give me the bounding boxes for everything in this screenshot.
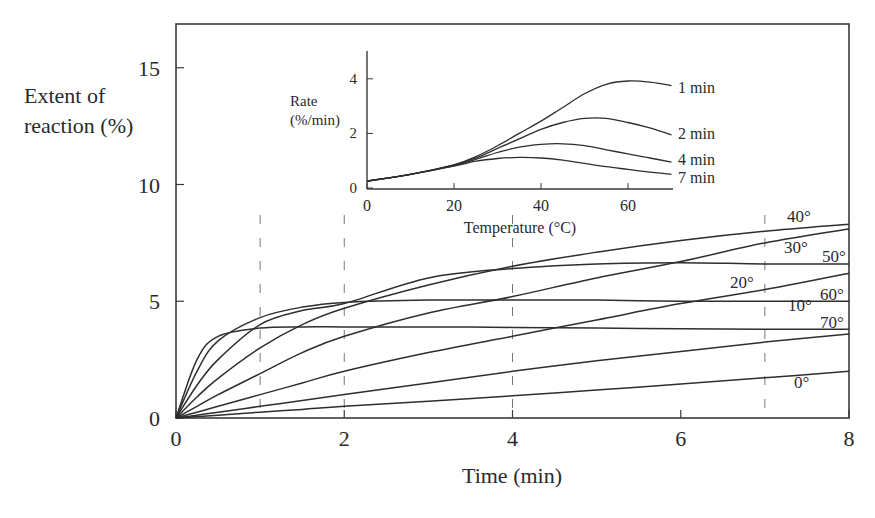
x-tick-label: 2 [339, 426, 350, 451]
x-tick-label: 4 [507, 426, 518, 451]
x-tick-label: 0 [171, 426, 182, 451]
y-tick-label: 5 [149, 289, 160, 314]
x-tick-label: 8 [844, 426, 855, 451]
y-tick-label: 0 [149, 406, 160, 431]
y-axis-title-line2: reaction (%) [24, 113, 133, 138]
inset-y-tick-label: 0 [350, 180, 358, 196]
inset-x-tick-label: 20 [446, 197, 462, 214]
inset-axis-ticks: 0240204060 [350, 71, 637, 214]
inset-x-axis-title: Temperature (°C) [464, 219, 576, 237]
x-axis-title: Time (min) [462, 463, 562, 488]
inset-series-label: 2 min [678, 125, 715, 142]
inset-series-label: 4 min [678, 151, 715, 168]
main-series-curves [176, 224, 849, 418]
main-axis-ticks: 05101502468 [138, 56, 855, 451]
series-label: 70° [820, 313, 844, 332]
inset-curve-4-min [367, 144, 672, 182]
series-label: 40° [787, 207, 811, 226]
y-tick-label: 10 [138, 173, 160, 198]
inset-curve-2-min [367, 118, 672, 181]
reaction-extent-chart: 05101502468 0°10°20°30°40°50°60°70° Exte… [0, 0, 875, 518]
series-label: 20° [730, 273, 754, 292]
series-label: 10° [788, 296, 812, 315]
series-label: 50° [822, 247, 846, 266]
inset-x-tick-label: 60 [620, 197, 636, 214]
series-label: 60° [820, 285, 844, 304]
inset-x-tick-label: 40 [533, 197, 549, 214]
series-label: 0° [794, 373, 809, 392]
inset-series-labels: 1 min2 min4 min7 min [678, 79, 715, 186]
inset-y-tick-label: 2 [350, 125, 358, 141]
series-label: 30° [784, 238, 808, 257]
x-tick-label: 6 [675, 426, 686, 451]
inset-y-tick-label: 4 [350, 71, 358, 87]
inset-axes [367, 51, 673, 189]
main-dashed-guides [260, 215, 765, 418]
curve-40 [176, 224, 849, 418]
y-axis-title-line1: Extent of [24, 83, 106, 108]
inset-y-axis-title-line2: (%/min) [290, 112, 340, 129]
main-series-labels: 0°10°20°30°40°50°60°70° [730, 207, 846, 392]
inset-series-label: 1 min [678, 79, 715, 96]
inset-x-tick-label: 0 [363, 197, 371, 214]
inset-y-axis-title-line1: Rate [290, 93, 318, 109]
inset-curve-1-min [367, 81, 672, 181]
inset-series-label: 7 min [678, 169, 715, 186]
y-tick-label: 15 [138, 56, 160, 81]
inset-series-curves [367, 81, 672, 181]
inset-curve-7-min [367, 157, 672, 181]
